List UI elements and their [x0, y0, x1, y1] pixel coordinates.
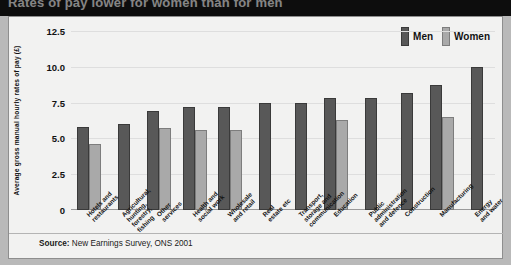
bar-men [471, 67, 483, 210]
y-axis-ticks: 02.55.07.510.012.5 [9, 31, 69, 210]
source-text: New Earnings Survey, ONS 2001 [72, 239, 193, 248]
y-tick-label: 7.5 [52, 97, 65, 108]
y-tick-label: 0 [60, 205, 65, 216]
y-tick-label: 10.0 [47, 61, 66, 72]
y-tick-label: 5.0 [52, 133, 65, 144]
chart-screenshot: Rates of pay lower for women than for me… [0, 0, 511, 265]
footer-divider [9, 233, 504, 234]
bar-men [77, 127, 89, 210]
bar-group [77, 31, 101, 210]
x-axis-labels: Hotels and restaurantsAgricultural, hunt… [71, 211, 495, 263]
source-prefix: Source: [39, 239, 69, 248]
title-bar: Rates of pay lower for women than for me… [0, 0, 511, 16]
y-tick-label: 12.5 [47, 26, 66, 37]
source-note: Source: New Earnings Survey, ONS 2001 [39, 239, 193, 248]
chart-panel: Average gross manual hourly rates of pay… [8, 16, 503, 259]
frame-right [503, 16, 511, 265]
y-tick-label: 2.5 [52, 169, 65, 180]
bar-men [365, 98, 377, 210]
frame-left [0, 16, 8, 265]
page-title: Rates of pay lower for women than for me… [8, 0, 283, 10]
